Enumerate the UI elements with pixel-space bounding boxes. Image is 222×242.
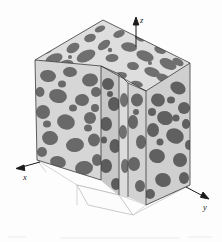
notch-back-face bbox=[119, 74, 129, 197]
notch-right-inner-face bbox=[128, 83, 146, 205]
y-axis-label: y bbox=[202, 202, 207, 212]
y-axis bbox=[186, 187, 209, 199]
scan-artifact bbox=[188, 236, 212, 238]
microstructure-figure: z x y bbox=[0, 0, 222, 242]
x-axis-label: x bbox=[22, 172, 27, 182]
scan-artifact bbox=[8, 236, 26, 238]
z-axis-label: z bbox=[139, 15, 144, 25]
microstructure-svg: z x y bbox=[0, 0, 222, 242]
x-axis bbox=[16, 162, 40, 171]
left-front-face bbox=[35, 60, 102, 180]
notch-left-inner-face bbox=[100, 66, 121, 195]
scan-artifact bbox=[60, 237, 180, 239]
